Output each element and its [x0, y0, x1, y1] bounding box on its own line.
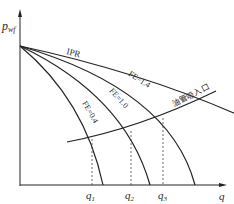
x-axis-label: q	[219, 190, 225, 202]
fe-0-4-label: FE=0.4	[80, 100, 100, 125]
tubing-intake-label: 油管吸入口	[170, 82, 210, 109]
y-axis-arrow-icon	[18, 9, 22, 17]
fe-1-0-curve	[20, 46, 150, 185]
y-axis-label: pwf	[1, 19, 17, 34]
x-axis-arrow-icon	[219, 183, 227, 187]
q1-label: q1	[86, 189, 95, 203]
fe-1-0-label: FE=1.0	[108, 86, 131, 110]
fe-1-4-curve	[20, 46, 195, 185]
q2-label: q2	[125, 189, 135, 203]
fe-1-4-label: FE=1.4	[127, 69, 152, 90]
q3-label: q3	[158, 189, 168, 203]
ipr-diagram: pwf q q1 q2 q3 IPR FE=1.4 FE=1.0 FE=0.4 …	[0, 0, 234, 204]
